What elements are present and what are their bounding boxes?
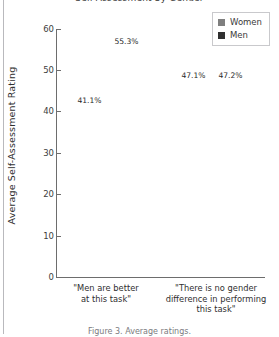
bar-women-1[interactable]: 41.1% <box>73 107 106 277</box>
bar-value-label: 41.1% <box>77 96 101 105</box>
x-category-label-2-line-2: difference in performing <box>158 294 274 305</box>
y-tick-label-20: 20 <box>32 190 54 198</box>
legend-swatch-men-icon <box>218 32 225 39</box>
x-axis-spine <box>56 277 265 278</box>
bar-group-1: 41.1% 55.3% <box>73 29 149 277</box>
bar-value-label: 47.1% <box>181 71 205 80</box>
bar-group-2: 47.1% 47.2% <box>177 29 253 277</box>
y-axis-label: Average Self-Assessment Rating <box>6 31 17 261</box>
legend: Women Men <box>212 12 270 46</box>
page-edge-rule <box>3 0 4 334</box>
x-category-label-1: "Men are better at this task" <box>58 283 154 304</box>
bar-value-label: 55.3% <box>114 37 138 46</box>
y-tick-label-30: 30 <box>32 149 54 157</box>
x-category-label-2-line-1: "There is no gender <box>158 283 274 294</box>
bar-men-1[interactable]: 55.3% <box>110 48 143 277</box>
plot-area: 41.1% 55.3% 47.1% 47.2% <box>57 29 265 277</box>
y-tick-label-10: 10 <box>32 232 54 240</box>
y-tick-label-40: 40 <box>32 107 54 115</box>
legend-label-men: Men <box>230 31 248 40</box>
y-tick-label-0: 0 <box>32 273 54 281</box>
bar-men-2[interactable]: 47.2% <box>214 82 247 277</box>
y-tick-label-group: 60 50 40 30 20 10 0 <box>28 0 54 334</box>
y-tick-label-50: 50 <box>32 66 54 74</box>
bar-women-2[interactable]: 47.1% <box>177 82 210 277</box>
x-category-label-1-line-2: at this task" <box>58 294 154 305</box>
x-category-label-2: "There is no gender difference in perfor… <box>158 283 274 315</box>
legend-label-women: Women <box>230 18 262 27</box>
x-category-label-2-line-3: this task" <box>158 304 274 315</box>
legend-swatch-women-icon <box>218 19 225 26</box>
figure-caption-clipped: Figure 3. Average ratings. <box>0 327 279 337</box>
y-tick-label-60: 60 <box>32 25 54 33</box>
legend-item-men[interactable]: Men <box>218 30 262 41</box>
x-category-label-1-line-1: "Men are better <box>58 283 154 294</box>
legend-item-women[interactable]: Women <box>218 17 262 28</box>
bar-value-label: 47.2% <box>218 71 242 80</box>
